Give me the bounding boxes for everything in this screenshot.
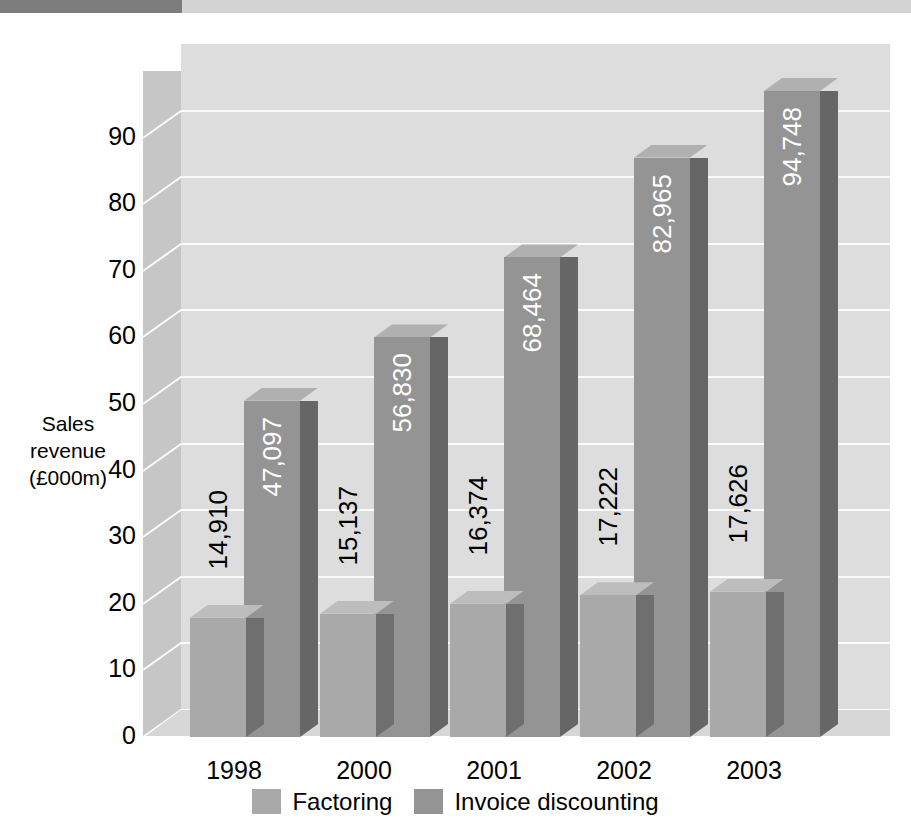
y-tick-80: 80 <box>16 190 136 215</box>
y-tick-10: 10 <box>16 656 136 681</box>
legend-swatch-icon <box>252 789 281 814</box>
legend-item-factoring[interactable]: Factoring <box>252 789 392 814</box>
bar-face <box>580 595 636 737</box>
bar-side-face <box>560 257 578 737</box>
legend-label: Factoring <box>292 790 392 814</box>
x-label-2003: 2003 <box>698 756 810 785</box>
legend-swatch-icon <box>414 789 443 814</box>
bar-value-label: 14,910 <box>205 490 231 570</box>
y-tick-70: 70 <box>16 257 136 282</box>
bar-side-face <box>636 595 654 737</box>
bar-value-label: 47,097 <box>259 417 285 497</box>
chart-legend: FactoringInvoice discounting <box>0 789 911 814</box>
bar-face <box>450 604 506 737</box>
y-tick-60: 60 <box>16 323 136 348</box>
bar-value-label: 94,748 <box>779 107 805 187</box>
x-label-2000: 2000 <box>308 756 420 785</box>
y-axis-title-line-3: (£000m) <box>2 464 134 491</box>
x-label-2002: 2002 <box>568 756 680 785</box>
legend-label: Invoice discounting <box>454 790 658 814</box>
bar-value-label: 68,464 <box>519 273 545 353</box>
bar-factoring-2001 <box>450 604 506 737</box>
bar-value-label: 82,965 <box>649 174 675 254</box>
legend-item-invoice-discounting[interactable]: Invoice discounting <box>414 789 658 814</box>
bar-side-face <box>690 158 708 737</box>
bar-factoring-1998 <box>190 618 246 737</box>
bar-factoring-2000 <box>320 614 376 737</box>
bar-face <box>320 614 376 737</box>
y-tick-0: 0 <box>16 723 136 748</box>
bar-side-face <box>246 618 264 737</box>
y-tick-20: 20 <box>16 590 136 615</box>
chart-left-wall <box>143 71 181 737</box>
bar-value-label: 17,626 <box>725 464 751 544</box>
bar-side-face <box>376 614 394 737</box>
decorative-band-light <box>182 0 911 13</box>
bar-face <box>190 618 246 737</box>
x-label-2001: 2001 <box>438 756 550 785</box>
bar-side-face <box>430 337 448 737</box>
y-axis-title: Sales revenue (£000m) <box>2 410 134 491</box>
y-axis-title-line-2: revenue <box>2 437 134 464</box>
bar-value-label: 56,830 <box>389 353 415 433</box>
bar-side-face <box>300 401 318 737</box>
y-tick-30: 30 <box>16 523 136 548</box>
bar-side-face <box>766 592 784 737</box>
bar-factoring-2003 <box>710 592 766 737</box>
bar-chart: 47,09714,91056,83015,13768,46416,37482,9… <box>0 0 911 819</box>
y-tick-90: 90 <box>16 124 136 149</box>
bar-value-label: 17,222 <box>595 467 621 547</box>
bar-side-face <box>820 91 838 737</box>
x-label-1998: 1998 <box>178 756 290 785</box>
bar-factoring-2002 <box>580 595 636 737</box>
bar-value-label: 16,374 <box>465 476 491 556</box>
bar-value-label: 15,137 <box>335 486 361 566</box>
bar-face <box>710 592 766 737</box>
bar-side-face <box>506 604 524 737</box>
y-axis-title-line-1: Sales <box>2 410 134 437</box>
